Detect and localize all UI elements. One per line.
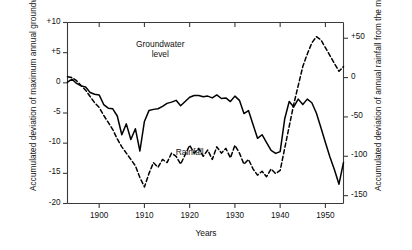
y-axis-left-tick-label: -15 xyxy=(49,167,61,176)
y-axis-right-tick-label: -50 xyxy=(351,111,363,120)
y-axis-right-tick-label: +50 xyxy=(351,32,365,41)
y-axis-left-tick-label: -20 xyxy=(49,198,61,207)
y-axis-right-tick-label: -100 xyxy=(351,150,367,159)
y-axis-left-tick-label: -10 xyxy=(49,137,61,146)
x-axis-tick-label: 1910 xyxy=(133,211,155,220)
y-axis-right-tick-label: -150 xyxy=(351,190,367,199)
rainfall-label: Rainfall xyxy=(150,147,230,157)
x-axis-tick-label: 1900 xyxy=(88,211,110,220)
axis-layer xyxy=(63,23,348,209)
series-line-rainfall xyxy=(68,37,344,187)
groundwater-level-label-line1: Groundwater xyxy=(120,39,200,49)
chart-figure: Accumulated deviation of maximum annual … xyxy=(0,0,412,250)
y-axis-right-tick-label: 0 xyxy=(351,72,356,81)
series-layer xyxy=(68,37,344,187)
y-axis-left-tick-label: +5 xyxy=(51,47,60,56)
y-axis-left-tick-label: -5 xyxy=(53,107,60,116)
series-line-groundwater xyxy=(68,79,344,184)
groundwater-level-label-line2: level xyxy=(120,49,200,59)
y-axis-left-tick-label: 0 xyxy=(56,77,61,86)
x-axis-tick-label: 1930 xyxy=(224,211,246,220)
x-axis-tick-label: 1940 xyxy=(269,211,291,220)
x-axis-tick-label: 1950 xyxy=(314,211,336,220)
y-axis-left-tick-label: +10 xyxy=(47,17,61,26)
groundwater-level-label: Groundwaterlevel xyxy=(120,39,200,59)
x-axis-tick-label: 1920 xyxy=(179,211,201,220)
